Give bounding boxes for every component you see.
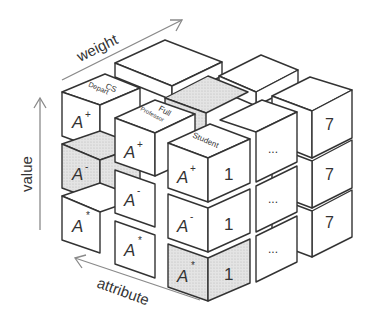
cell-value-dots-mid: ... xyxy=(268,192,278,206)
cell-left-mid-sup: - xyxy=(85,161,88,172)
cell-mid-mid: A xyxy=(123,191,135,210)
cell-front-bot-right: 1 xyxy=(224,265,233,284)
cell-front-top-sup: + xyxy=(190,163,196,174)
cell-mid-top-sup: + xyxy=(137,139,143,150)
value-axis-label: value xyxy=(18,156,35,192)
cell-left-bot: A xyxy=(71,217,83,236)
cell-left-top: A xyxy=(71,113,83,132)
cell-value-7-top: 7 xyxy=(325,116,334,133)
cell-mid-bot: A xyxy=(123,241,135,260)
weight-axis-label: weight xyxy=(73,30,121,65)
cell-front-mid: A xyxy=(176,217,188,236)
value-axis-arrow xyxy=(34,98,46,230)
attribute-axis-label: attribute xyxy=(95,274,152,309)
cell-front-top: A xyxy=(176,168,188,187)
cell-mid-mid-sup: - xyxy=(137,185,140,196)
cell-front-mid-sup: - xyxy=(190,211,193,222)
cell-left-bot-sup: * xyxy=(86,210,90,221)
cell-value-dots-top: ... xyxy=(268,142,278,156)
cube-diagram-svg: weight value attribute 7 7 7 xyxy=(0,0,372,322)
cell-front-top-right: 1 xyxy=(224,165,233,184)
cell-value-7-bot: 7 xyxy=(325,214,334,231)
cell-value-7-mid: 7 xyxy=(325,166,334,183)
cell-left-mid: A xyxy=(71,165,83,184)
cube-mid-bot: A * xyxy=(115,221,155,278)
cell-front-bot: A xyxy=(176,267,188,286)
cell-value-dots-bot: ... xyxy=(268,242,278,256)
cell-front-bot-sup: * xyxy=(191,260,195,271)
cell-front-mid-right: 1 xyxy=(224,215,233,234)
cube-diagram: weight value attribute 7 7 7 xyxy=(0,0,372,322)
cell-mid-top: A xyxy=(123,143,135,162)
cube-mid-mid: A - xyxy=(115,170,155,227)
cell-left-top-sup: + xyxy=(85,109,91,120)
cell-mid-bot-sup: * xyxy=(138,235,142,246)
